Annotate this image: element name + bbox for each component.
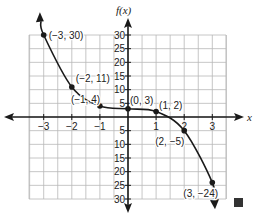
end-square-icon (234, 198, 243, 207)
y-tick-label: 25 (114, 180, 126, 191)
y-tick-label: 10 (114, 84, 126, 95)
data-point (181, 128, 187, 134)
point-label: (−3, 30) (49, 30, 84, 41)
x-tick-label: −2 (66, 121, 78, 132)
point-label: (0, 3) (130, 95, 153, 106)
x-tick-label: 1 (153, 121, 159, 132)
x-axis-title: x (246, 111, 252, 123)
data-point (210, 180, 216, 186)
data-point (41, 32, 47, 38)
data-point (125, 106, 131, 112)
y-tick-label: 20 (114, 57, 126, 68)
y-tick-label: 25 (114, 43, 126, 54)
y-tick-label: 30 (114, 194, 126, 205)
data-points: (−3, 30)(−2, 11)(−1, 4)(0, 3)(1, 2)(2, −… (41, 30, 218, 199)
data-point (153, 109, 159, 115)
point-label: (3, −24) (183, 188, 218, 199)
point-label: (2, −5) (155, 136, 184, 147)
y-tick-label: 10 (114, 139, 126, 150)
point-label: (−1, 4) (71, 94, 100, 105)
x-tick-label: −3 (38, 121, 50, 132)
y-tick-label: 20 (114, 166, 126, 177)
y-tick-label: 5 (119, 98, 125, 109)
point-label: (−2, 11) (76, 73, 110, 84)
point-label: (1, 2) (159, 100, 182, 111)
y-tick-label: 15 (114, 153, 126, 164)
x-tick-label: 3 (210, 121, 216, 132)
y-axis-title: f(x) (116, 4, 132, 17)
y-tick-label: 30 (114, 30, 126, 41)
function-graph: −3−2−11233025201510551015202530 (−3, 30)… (0, 0, 255, 223)
x-tick-label: −1 (94, 121, 106, 132)
data-point (69, 84, 75, 90)
y-tick-label: 15 (114, 71, 126, 82)
y-tick-label: 5 (119, 125, 125, 136)
